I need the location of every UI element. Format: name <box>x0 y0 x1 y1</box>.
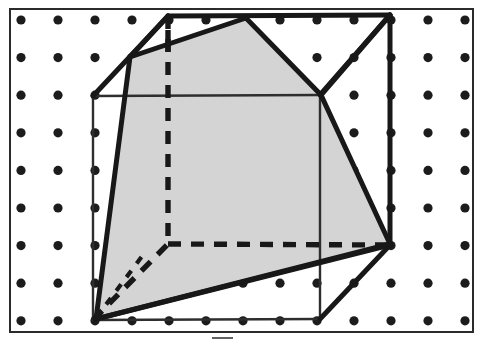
lattice-dot <box>53 203 62 212</box>
lattice-dot <box>460 316 469 325</box>
lattice-dot <box>349 91 358 100</box>
lattice-dot <box>16 128 25 137</box>
lattice-dot <box>53 15 62 24</box>
lattice-dot <box>16 279 25 288</box>
lattice-dot <box>423 53 432 62</box>
lattice-dot <box>90 203 99 212</box>
lattice-dot <box>460 166 469 175</box>
lattice-dot <box>16 15 25 24</box>
lattice-dot <box>16 166 25 175</box>
lattice-dot <box>16 241 25 250</box>
lattice-dot <box>423 166 432 175</box>
lattice-dot <box>423 128 432 137</box>
lattice-dot <box>460 279 469 288</box>
lattice-dot <box>275 279 284 288</box>
lattice-dot <box>53 53 62 62</box>
lattice-dot <box>53 316 62 325</box>
lattice-dot <box>349 316 358 325</box>
lattice-dot <box>423 15 432 24</box>
lattice-dot <box>90 128 99 137</box>
lattice-dot <box>460 53 469 62</box>
lattice-dot <box>423 316 432 325</box>
lattice-dot <box>53 91 62 100</box>
lattice-dot <box>53 279 62 288</box>
lattice-dot <box>460 128 469 137</box>
lattice-dot <box>423 203 432 212</box>
lattice-dot <box>460 241 469 250</box>
lattice-dot <box>127 15 136 24</box>
lattice-dot <box>275 316 284 325</box>
lattice-dot <box>16 316 25 325</box>
lattice-dot <box>16 91 25 100</box>
lattice-dot <box>460 91 469 100</box>
figure-canvas <box>0 0 483 341</box>
lattice-dot <box>312 53 321 62</box>
lattice-dot <box>423 279 432 288</box>
lattice-dot <box>53 166 62 175</box>
lattice-dot <box>423 91 432 100</box>
lattice-dot <box>16 203 25 212</box>
lattice-dot <box>238 316 247 325</box>
lattice-dot <box>90 166 99 175</box>
lattice-dot <box>53 128 62 137</box>
lattice-dot <box>53 241 62 250</box>
geometry-figure <box>0 0 483 341</box>
lattice-dot <box>460 15 469 24</box>
lattice-dot <box>90 15 99 24</box>
lattice-dot <box>386 316 395 325</box>
lattice-dot <box>460 203 469 212</box>
lattice-dot <box>201 316 210 325</box>
lattice-dot <box>349 128 358 137</box>
edge-back-top <box>168 15 390 16</box>
lattice-dot <box>90 241 99 250</box>
lattice-dot <box>16 53 25 62</box>
lattice-dot <box>423 241 432 250</box>
edge-front-bottom <box>93 319 320 320</box>
lattice-dot <box>90 53 99 62</box>
lattice-dot <box>386 279 395 288</box>
